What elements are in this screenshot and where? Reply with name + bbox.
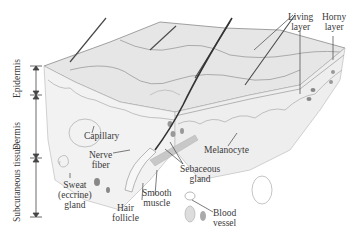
label-living-layer: Livinglayer [288,12,313,32]
skin-illustration [0,0,361,244]
label-sebaceous-gland: Sebaceousgland [180,164,220,184]
label-nerve-fiber: Nervefiber [89,150,112,170]
label-sweat-gland: Sweat(eccrine)gland [58,180,92,210]
layer-scale-bar [30,66,42,217]
label-melanocyte: Melanocyte [204,145,249,155]
label-subcutaneous-tissue: Subcutaneous tissue [12,145,22,222]
label-horny-layer: Hornylayer [322,12,346,32]
label-hair-follicle: Hairfollicle [112,203,139,223]
label-smooth-muscle: Smoothmuscle [142,188,172,208]
label-epidermis: Epidermis [12,59,22,98]
label-capillary: Capillary [84,131,119,141]
skin-diagram: Epidermis Dermis Subcutaneous tissue Liv… [0,0,361,244]
label-blood-vessel: Bloodvessel [213,208,236,228]
